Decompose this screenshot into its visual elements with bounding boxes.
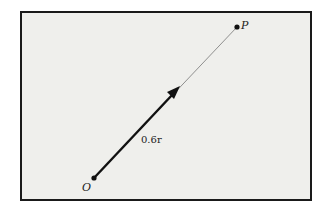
vector-diagram (0, 0, 324, 213)
vector-label: 0.6r (141, 135, 162, 145)
point-p-label: P (241, 20, 248, 31)
point-p-dot (234, 24, 239, 29)
point-o-label: O (82, 182, 91, 193)
point-o-dot (91, 175, 96, 180)
